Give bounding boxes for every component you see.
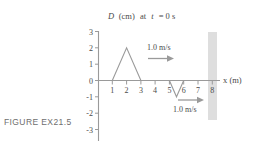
plot-title-time-var: t	[151, 11, 154, 21]
plot-title-equals: = 0 s	[159, 11, 176, 21]
x-tick-label-5: 5	[167, 86, 171, 95]
x-tick-label-3: 3	[139, 86, 143, 95]
x-tick-label-6: 6	[182, 86, 186, 95]
plot-title-unit: (cm)	[119, 11, 135, 21]
y-tick-label-minus-1: -1	[86, 93, 93, 102]
x-tick-label-8: 8	[210, 86, 214, 95]
y-tick-label-1: 1	[89, 60, 93, 69]
figure-caption: FIGURE EX21.5	[4, 117, 72, 127]
x-tick-label-4: 4	[153, 86, 157, 95]
x-axis-label: x (m)	[223, 75, 242, 85]
x-tick-label-2: 2	[125, 86, 129, 95]
right-arrow-icon-top	[148, 55, 174, 62]
x-tick-label-1: 1	[110, 86, 114, 95]
y-tick-label-2: 2	[89, 44, 93, 53]
positive-triangular-pulse	[112, 48, 141, 81]
right-arrow-icon-bottom	[178, 97, 204, 104]
y-tick-label-minus-2: -2	[86, 109, 93, 118]
figure-container: 3 2 1 0 -1 -2 -3 1 2 3 4 5 6 7 8 x (m)	[0, 0, 263, 148]
plot-title-quantity: D	[107, 11, 115, 21]
x-tick-label-7: 7	[196, 86, 200, 95]
speed-label-bottom: 1.0 m/s	[173, 105, 197, 114]
y-tick-label-0: 0	[89, 77, 93, 86]
x-axis-ticks	[112, 81, 212, 85]
plot-title: D (cm) at t = 0 s	[107, 11, 175, 21]
y-tick-label-3: 3	[89, 28, 93, 37]
speed-label-top: 1.0 m/s	[147, 43, 171, 52]
wall-boundary	[208, 32, 217, 120]
y-tick-label-minus-3: -3	[86, 126, 93, 135]
plot-title-at: at	[140, 11, 147, 21]
